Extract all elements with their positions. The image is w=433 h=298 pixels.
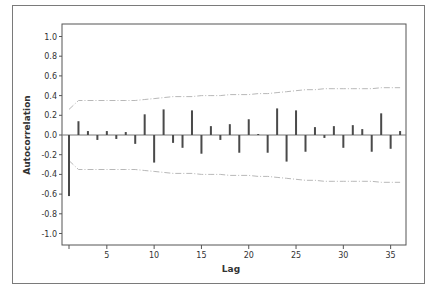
y-tick-label: -0.8 xyxy=(41,210,57,219)
y-tick-label: 1.0 xyxy=(44,33,57,42)
acf-bar xyxy=(200,135,202,154)
y-axis: 1.00.80.60.40.20.0-0.2-0.4-0.6-0.8-1.0 xyxy=(41,33,62,239)
x-tick-label: 20 xyxy=(244,251,254,260)
acf-bar xyxy=(191,110,193,135)
acf-bar xyxy=(323,135,325,138)
acf-bar xyxy=(267,135,269,153)
y-tick-label: 0.8 xyxy=(44,52,57,61)
y-tick-label: -0.4 xyxy=(41,170,57,179)
acf-bar xyxy=(286,135,288,162)
acf-chart: 1.00.80.60.40.20.0-0.2-0.4-0.6-0.8-1.0 5… xyxy=(0,0,433,298)
y-tick-label: -0.2 xyxy=(41,151,57,160)
acf-bar xyxy=(219,135,221,140)
acf-bar xyxy=(106,131,108,135)
acf-bar xyxy=(361,129,363,135)
acf-bar xyxy=(182,135,184,148)
acf-bar xyxy=(314,127,316,135)
y-tick-label: -1.0 xyxy=(41,230,57,239)
acf-bar xyxy=(248,119,250,135)
acf-bar xyxy=(333,126,335,135)
acf-bar xyxy=(399,131,401,135)
acf-bar xyxy=(144,114,146,135)
x-tick-label: 30 xyxy=(338,251,348,260)
acf-bar xyxy=(163,109,165,135)
y-tick-label: 0.0 xyxy=(44,131,57,140)
acf-bar xyxy=(352,125,354,135)
acf-bar xyxy=(134,135,136,144)
x-tick-label: 35 xyxy=(386,251,396,260)
upper-confidence-limit xyxy=(69,88,400,110)
acf-bar xyxy=(276,108,278,135)
acf-bar xyxy=(380,113,382,135)
lower-confidence-limit xyxy=(69,161,400,183)
acf-bar xyxy=(77,121,79,135)
y-tick-label: 0.2 xyxy=(44,111,57,120)
acf-bar xyxy=(342,135,344,148)
acf-bar xyxy=(172,135,174,143)
acf-bar xyxy=(229,124,231,135)
y-axis-label: Autocorrelation xyxy=(22,95,32,175)
x-tick-label: 10 xyxy=(149,251,159,260)
acf-bar xyxy=(305,135,307,152)
acf-bar xyxy=(238,135,240,153)
x-axis: 5101520253035 xyxy=(69,245,396,260)
acf-bars xyxy=(68,108,401,196)
acf-bar xyxy=(68,135,70,196)
acf-bar xyxy=(371,135,373,152)
x-tick-label: 25 xyxy=(291,251,301,260)
acf-bar xyxy=(295,110,297,135)
acf-bar xyxy=(257,134,259,135)
x-tick-label: 5 xyxy=(104,251,109,260)
y-tick-label: -0.6 xyxy=(41,190,57,199)
x-tick-label: 15 xyxy=(196,251,206,260)
acf-bar xyxy=(125,132,127,135)
y-tick-label: 0.4 xyxy=(44,92,57,101)
acf-bar xyxy=(87,131,89,135)
acf-bar xyxy=(153,135,155,163)
acf-bar xyxy=(210,126,212,135)
acf-bar xyxy=(390,135,392,149)
acf-bar xyxy=(96,135,98,140)
acf-bar xyxy=(115,135,117,139)
y-tick-label: 0.6 xyxy=(44,72,57,81)
x-axis-label: Lag xyxy=(222,264,240,274)
